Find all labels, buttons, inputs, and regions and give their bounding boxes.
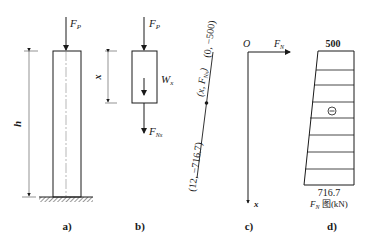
mechanics-figure: FP h a) FP Wx FNx x b) <box>0 0 367 251</box>
column-body <box>53 51 81 197</box>
fn-axis-label: FN <box>273 38 285 50</box>
top-value: 500 <box>326 38 341 49</box>
weight-label: Wx <box>161 73 174 87</box>
segment-body <box>132 51 157 103</box>
caption-b: b) <box>135 220 145 233</box>
bottom-value: 716.7 <box>318 187 341 198</box>
x-axis-label: x <box>253 199 259 209</box>
caption-d: d) <box>327 220 337 233</box>
caption-a: a) <box>62 220 72 233</box>
load-label: FP <box>148 17 161 31</box>
figure-c-force-line: (0, −500) (x, FNx) (12, −716.7) <box>186 20 218 193</box>
figure-c-axes: O FN x c) <box>243 38 290 233</box>
length-label: x <box>92 75 103 81</box>
point-top-label: (0, −500) <box>201 20 218 59</box>
figure-d-axial-force-diagram: 500 716.7 FN 图(kN) d) <box>304 38 354 233</box>
height-label: h <box>11 121 23 127</box>
caption-c: c) <box>245 220 254 233</box>
origin-label: O <box>243 38 250 49</box>
figure-b-free-body: FP Wx FNx x b) <box>92 17 174 233</box>
point-bottom-label: (12, −716.7) <box>186 141 205 192</box>
load-label: FP <box>69 17 82 31</box>
internal-force-label: FNx <box>148 125 163 138</box>
fixed-support <box>39 197 93 202</box>
figure-a-column: FP h a) <box>11 17 93 233</box>
sample-point <box>205 101 209 105</box>
diagram-label: FN 图(kN) <box>309 199 348 210</box>
